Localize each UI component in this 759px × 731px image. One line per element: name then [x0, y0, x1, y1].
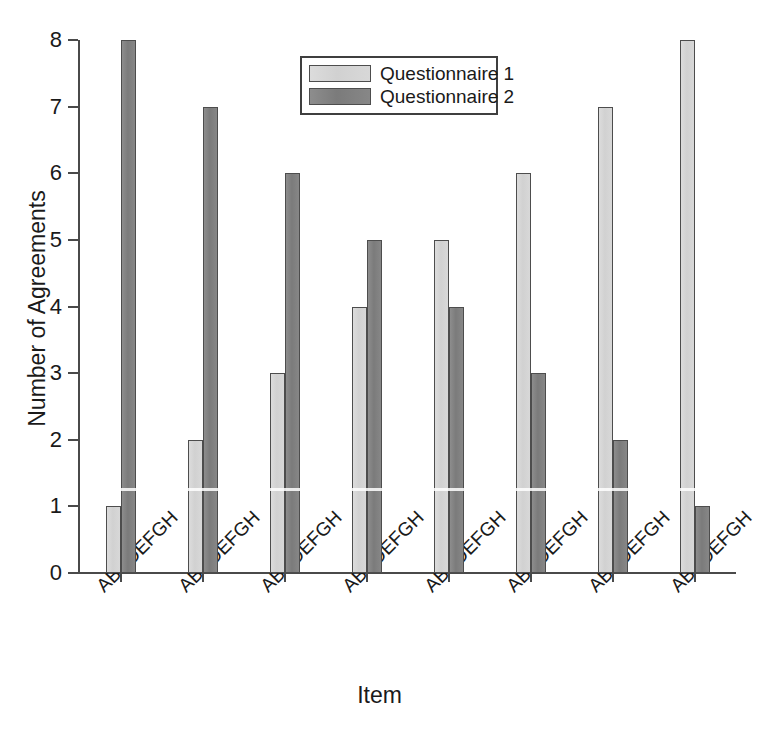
bar-group — [490, 40, 572, 573]
y-axis-tick-label: 1 — [0, 495, 62, 517]
legend-label-questionnaire-2: Questionnaire 2 — [380, 87, 514, 106]
legend-entry-questionnaire-1[interactable]: Questionnaire 1 — [309, 63, 490, 84]
y-axis-tick-label-text: 1 — [4, 495, 62, 517]
bar-questionnaire-1[interactable] — [434, 240, 449, 573]
bar-group — [244, 40, 326, 573]
bar-group — [326, 40, 408, 573]
legend-label-questionnaire-1: Questionnaire 1 — [380, 64, 514, 83]
y-axis-tick — [68, 239, 78, 241]
bar-chart-figure: 012345678 Number of Agreements ABCDEFGHA… — [0, 0, 759, 731]
y-axis-tick — [68, 439, 78, 441]
bar-questionnaire-2[interactable] — [367, 240, 382, 573]
plot-area — [80, 40, 736, 573]
y-axis-tick — [68, 572, 78, 574]
legend-swatch-questionnaire-1 — [309, 65, 371, 82]
bar-questionnaire-2[interactable] — [121, 40, 136, 573]
bar-questionnaire-2[interactable] — [695, 506, 710, 573]
y-axis-tick — [68, 172, 78, 174]
bar-questionnaire-1[interactable] — [598, 107, 613, 573]
bar-questionnaire-1[interactable] — [680, 40, 695, 573]
bar-questionnaire-1[interactable] — [352, 307, 367, 574]
bar-questionnaire-2[interactable] — [531, 373, 546, 573]
bar-questionnaire-1[interactable] — [106, 506, 121, 573]
bar-questionnaire-2[interactable] — [613, 440, 628, 573]
x-axis-title: Item — [0, 682, 759, 709]
legend-entry-questionnaire-2[interactable]: Questionnaire 2 — [309, 86, 490, 107]
bar-group — [408, 40, 490, 573]
y-axis-tick — [68, 39, 78, 41]
y-axis-tick-label: 0 — [0, 562, 62, 584]
bar-group — [80, 40, 162, 573]
y-axis-tick — [68, 306, 78, 308]
bar-group — [162, 40, 244, 573]
bar-questionnaire-1[interactable] — [516, 173, 531, 573]
y-axis-tick-label-text: 8 — [4, 29, 62, 51]
y-axis-tick-label-text: 7 — [4, 96, 62, 118]
bar-group — [572, 40, 654, 573]
legend-swatch-questionnaire-2 — [309, 88, 371, 105]
y-axis-tick — [68, 372, 78, 374]
y-axis-title: Number of Agreements — [24, 119, 51, 499]
y-axis-tick-label: 7 — [0, 96, 62, 118]
y-axis-tick — [68, 505, 78, 507]
bar-questionnaire-1[interactable] — [270, 373, 285, 573]
chart-legend: Questionnaire 1 Questionnaire 2 — [300, 56, 498, 115]
y-axis-tick-label-text: 0 — [4, 562, 62, 584]
bar-group — [654, 40, 736, 573]
y-axis-tick-label: 8 — [0, 29, 62, 51]
bar-questionnaire-2[interactable] — [203, 107, 218, 573]
bar-questionnaire-1[interactable] — [188, 440, 203, 573]
y-axis-tick — [68, 106, 78, 108]
bar-questionnaire-2[interactable] — [449, 307, 464, 574]
bar-questionnaire-2[interactable] — [285, 173, 300, 573]
